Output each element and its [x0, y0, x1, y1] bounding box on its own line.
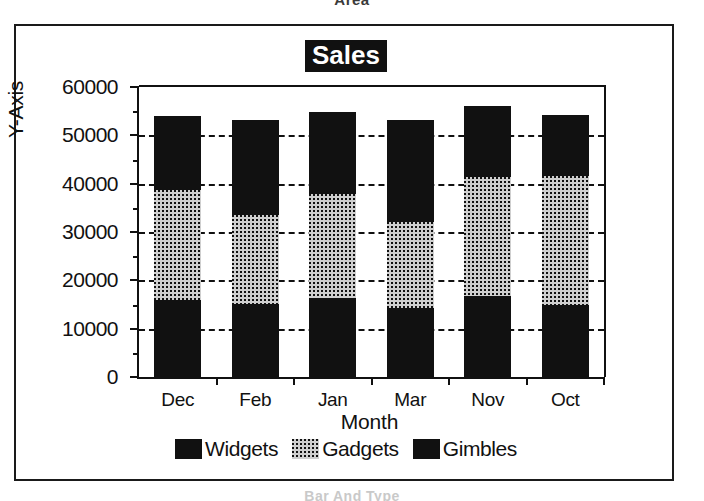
plot-wrapper: Y-Axis 60000 50000 4	[16, 26, 676, 483]
x-axis-label-nov: Nov	[471, 389, 504, 411]
bar-stack	[542, 115, 589, 377]
y-axis-label-40000: 40000	[62, 172, 118, 196]
bar-segment	[154, 116, 201, 190]
bar-stack	[154, 116, 201, 377]
plot-area: 60000 50000 40000 30000 20000 10000 0	[137, 87, 604, 379]
x-axis-label-mar: Mar	[394, 389, 426, 411]
bar-segment	[309, 194, 356, 298]
page-caption-bottom: Bar And Type	[0, 488, 704, 501]
y-axis-label-20000: 20000	[62, 268, 118, 292]
y-tick-40000: 40000	[130, 183, 139, 185]
bar-segment	[542, 115, 589, 176]
figure-frame: Sales Y-Axis 60000 50000	[14, 24, 674, 481]
bar-segment	[309, 112, 356, 194]
chart-legend: WidgetsGadgetsGimbles	[16, 438, 676, 459]
x-axis-label-jan: Jan	[318, 389, 348, 411]
y-axis-label-10000: 10000	[62, 317, 118, 341]
bar-column	[387, 87, 434, 377]
x-tick	[371, 377, 373, 385]
plot-right-border	[604, 85, 606, 377]
bar-segment	[232, 215, 279, 304]
bar-column	[309, 87, 356, 377]
solid-black-swatch	[175, 439, 202, 459]
bar-column	[464, 87, 511, 377]
y-tick-0: 0	[130, 376, 139, 378]
y-axis-label-60000: 60000	[62, 75, 118, 99]
x-axis-title: Month	[137, 410, 602, 434]
x-tick	[216, 377, 218, 385]
legend-item[interactable]: Gimbles	[413, 438, 517, 459]
bar-stack	[309, 112, 356, 377]
legend-item[interactable]: Gadgets	[292, 438, 399, 459]
bar-segment	[309, 298, 356, 377]
bar-column	[232, 87, 279, 377]
legend-label: Gadgets	[322, 438, 399, 459]
bar-segment	[387, 120, 434, 222]
bar-segment	[387, 308, 434, 377]
bar-stack	[232, 120, 279, 377]
bar-stack	[387, 120, 434, 377]
x-axis-label-oct: Oct	[551, 389, 580, 411]
y-axis-label-30000: 30000	[62, 220, 118, 244]
bar-segment	[154, 190, 201, 300]
x-tick	[448, 377, 450, 385]
x-axis-label-feb: Feb	[239, 389, 271, 411]
bar-segment	[542, 176, 589, 305]
bar-segment	[387, 222, 434, 308]
y-tick-10000: 10000	[130, 328, 139, 330]
bar-segment	[232, 304, 279, 377]
legend-label: Gimbles	[443, 438, 517, 459]
legend-item[interactable]: Widgets	[175, 438, 278, 459]
bar-segment	[464, 106, 511, 177]
y-axis-label-0: 0	[107, 365, 118, 389]
x-axis-label-dec: Dec	[161, 389, 194, 411]
page-caption-top: Area	[0, 0, 704, 7]
bar-segment	[464, 177, 511, 296]
y-tick-60000: 60000	[130, 86, 139, 88]
legend-label: Widgets	[205, 438, 278, 459]
y-tick-50000: 50000	[130, 134, 139, 136]
x-tick	[603, 377, 605, 385]
y-axis-label-50000: 50000	[62, 123, 118, 147]
solid-black-swatch	[413, 439, 440, 459]
bar-segment	[464, 296, 511, 377]
x-tick	[526, 377, 528, 385]
bar-segment	[232, 120, 279, 215]
x-tick	[293, 377, 295, 385]
bar-segment	[154, 300, 201, 377]
dotted-gray-swatch	[292, 439, 319, 459]
y-tick-30000: 30000	[130, 231, 139, 233]
bars-layer	[139, 87, 604, 377]
bar-column	[542, 87, 589, 377]
bar-stack	[464, 106, 511, 377]
bar-column	[154, 87, 201, 377]
bar-segment	[542, 305, 589, 377]
y-axis-title: Y-Axis	[4, 81, 28, 138]
y-tick-20000: 20000	[130, 279, 139, 281]
